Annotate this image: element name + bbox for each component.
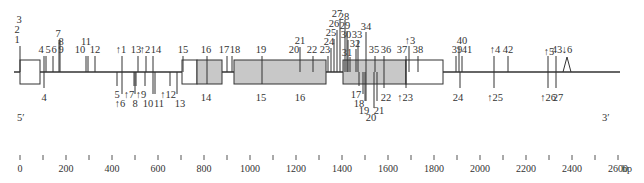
top-marker-labels: 123456789101112↑113↑21415161718192021222…	[14, 8, 572, 58]
exon-1-segment-1	[20, 60, 40, 84]
three-prime-label: 3′	[602, 112, 610, 123]
scale-tick-label: 2000	[470, 163, 490, 174]
marker-label: 27	[553, 92, 564, 103]
marker-label: 6	[51, 44, 56, 55]
peak-marker-icon	[563, 57, 571, 72]
marker-label: ↑23	[397, 92, 413, 103]
marker-label: 16	[295, 92, 306, 103]
marker-label: 16	[201, 44, 212, 55]
marker-label: ↑25	[487, 92, 503, 103]
scale-tick-label: 1400	[332, 163, 352, 174]
gene-structure-diagram: 123456789101112↑113↑21415161718192021222…	[0, 0, 644, 183]
marker-label: 26	[329, 18, 340, 29]
scale-tick-label: 800	[197, 163, 212, 174]
marker-label: 17	[219, 44, 230, 55]
marker-label: 22	[307, 44, 318, 55]
marker-label: ↑4	[490, 44, 501, 55]
marker-label: 15	[178, 44, 189, 55]
scale-tick-label: 1600	[378, 163, 398, 174]
scale-tick-label: 2400	[562, 163, 582, 174]
scale-tick-label: 2200	[516, 163, 536, 174]
marker-label: 9	[58, 44, 63, 55]
marker-label: 24	[453, 92, 464, 103]
marker-label: ↓6	[562, 44, 573, 55]
bottom-marker-labels: 45↑6↑78↑91011↑1213141516171819202122↑232…	[41, 89, 563, 123]
marker-label: 5	[45, 44, 50, 55]
scale-tick-label: 1800	[424, 163, 444, 174]
marker-label: 14	[151, 44, 162, 55]
marker-label: 12	[90, 44, 101, 55]
marker-label: 43	[552, 44, 563, 55]
marker-label: 2	[14, 24, 19, 35]
marker-label: 4	[41, 92, 47, 103]
marker-label: 4	[38, 44, 44, 55]
scale-tick-label: 400	[105, 163, 120, 174]
exon-3-segment-1	[234, 60, 326, 84]
marker-label: 22	[381, 92, 392, 103]
marker-label: 36	[381, 44, 392, 55]
marker-label: 38	[413, 44, 424, 55]
marker-label: 3	[16, 14, 21, 25]
exon-2-segment-1	[182, 60, 197, 84]
marker-label: 42	[503, 44, 514, 55]
scale-tick-label: 1000	[240, 163, 260, 174]
marker-label: 41	[462, 44, 473, 55]
marker-label: 15	[256, 92, 267, 103]
scale-tick-label: 600	[151, 163, 166, 174]
marker-label: 1	[14, 34, 19, 45]
scale-tick-label: 200	[59, 163, 74, 174]
marker-label: 21	[295, 35, 306, 46]
marker-label: 21	[374, 105, 385, 116]
scale-tick-label: 1200	[286, 163, 306, 174]
marker-label: 13	[175, 98, 186, 109]
five-prime-label: 5′	[17, 112, 25, 123]
marker-label: 18	[230, 44, 241, 55]
scale-unit-label: bp	[622, 163, 632, 174]
marker-label: ↑2	[140, 44, 151, 55]
marker-label: 34	[361, 21, 372, 32]
marker-label: ↑1	[116, 44, 127, 55]
exon-4-segment-2	[406, 60, 443, 84]
bp-scale-axis: 0200400600800100012001400160018002000220…	[18, 155, 629, 174]
marker-label: 10	[143, 98, 154, 109]
exon-2-segment-2	[197, 60, 222, 84]
marker-label: 35	[369, 44, 380, 55]
marker-label: 14	[201, 92, 212, 103]
marker-label: 19	[256, 44, 267, 55]
marker-label: ↑12	[160, 89, 176, 100]
scale-tick-label: 0	[18, 163, 23, 174]
